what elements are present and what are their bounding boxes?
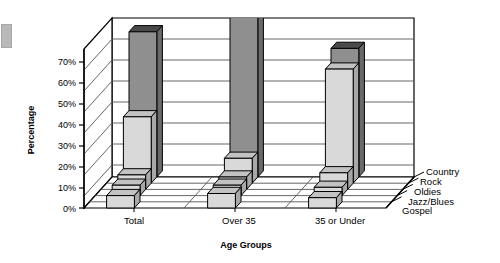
y-tick-label: 10%	[58, 183, 76, 193]
bar-under35-gospel	[309, 192, 342, 209]
y-tick-label: 30%	[58, 141, 76, 151]
legend-item-gospel[interactable]: Gospel	[402, 205, 432, 216]
y-axis	[79, 49, 84, 209]
x-tick-labels: Total Over 35 35 or Under	[124, 215, 365, 226]
y-tick-label: 0%	[63, 204, 76, 214]
y-tick-label: 60%	[58, 78, 76, 88]
y-axis-title: Percentage	[26, 106, 36, 155]
x-tick-label-35-or-under: 35 or Under	[315, 215, 365, 226]
y-tick-label: 20%	[58, 162, 76, 172]
scan-edge-artifact	[1, 24, 12, 48]
bar-chart-3d: 70% 60% 50% 40% 30% 20% 10% 0% Percentag…	[0, 0, 500, 263]
y-tick-label: 40%	[58, 120, 76, 130]
bar-over35-gospel	[208, 187, 241, 208]
bar-under35-rock	[325, 63, 358, 183]
bar-total-gospel	[107, 189, 140, 208]
plot-left-wall	[84, 18, 112, 208]
x-tick-label-over-35: Over 35	[222, 215, 256, 226]
chart-canvas: 70% 60% 50% 40% 30% 20% 10% 0% Percentag…	[0, 0, 500, 263]
y-tick-label: 50%	[58, 99, 76, 109]
y-tick-label: 70%	[58, 57, 76, 67]
y-tick-labels: 70% 60% 50% 40% 30% 20% 10% 0%	[58, 57, 76, 214]
x-tick-label-total: Total	[124, 215, 144, 226]
x-axis-title: Age Groups	[220, 240, 272, 250]
